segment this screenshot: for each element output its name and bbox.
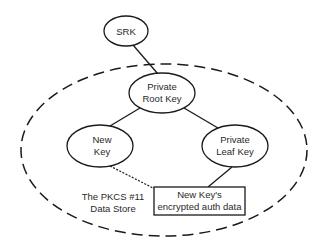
edge-srk-to-root [133,45,158,74]
data-store-label-line1: The PKCS #11 [82,191,145,202]
private-leaf-key-label-line1: Private [220,134,250,145]
node-srk: SRK [104,16,148,46]
data-store-label: The PKCS #11 Data Store [82,191,145,214]
node-new-key: New Key [67,125,133,167]
node-auth-data-box: New Key's encrypted auth data [154,187,245,215]
edge-root-to-leafkey [184,108,218,128]
srk-label: SRK [116,26,136,37]
node-private-root-key: Private Root Key [129,73,195,113]
node-private-leaf-key: Private Leaf Key [202,125,268,167]
private-root-key-label-line1: Private [147,81,177,92]
private-root-key-label-line2: Root Key [142,93,181,104]
data-store-label-line2: Data Store [90,203,135,214]
new-key-label-line2: Key [94,146,111,157]
auth-data-label-line1: New Key's [177,189,222,200]
edge-newkey-to-authbox-dotted [110,166,155,189]
key-hierarchy-diagram: SRK Private Root Key New Key Private Lea… [0,0,322,248]
edge-root-to-newkey [110,108,140,126]
private-leaf-key-label-line2: Leaf Key [216,146,254,157]
edge-leafkey-to-authbox [208,167,232,187]
auth-data-label-line2: encrypted auth data [158,201,243,212]
new-key-label-line1: New [92,134,111,145]
